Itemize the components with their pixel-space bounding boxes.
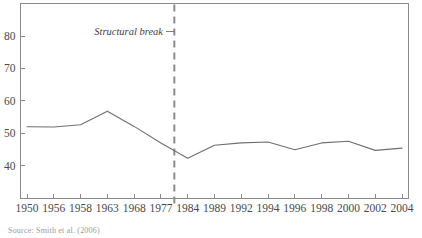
x-tick-label: 1956 [42, 202, 65, 214]
structural-break-marker: Structural break [94, 5, 174, 206]
y-tick-label: 50 [4, 127, 16, 139]
x-tick-label: 1984 [176, 202, 199, 214]
x-tick-label: 1992 [230, 202, 253, 214]
chart-figure: 8070605040 19501956195819631968197719841… [0, 0, 422, 238]
y-tick-label: 80 [4, 30, 16, 42]
source-note: Source: Smith et al. (2006) [8, 226, 100, 235]
x-tick-label: 1968 [123, 202, 146, 214]
x-tick-label: 1994 [257, 202, 280, 214]
y-tick-label: 40 [4, 160, 16, 172]
y-axis-ticks [21, 36, 26, 166]
y-tick-label: 70 [4, 62, 16, 74]
x-axis-ticks [27, 194, 402, 199]
y-axis-labels: 8070605040 [4, 30, 16, 172]
x-tick-label: 1998 [310, 202, 333, 214]
plot-frame [21, 4, 409, 199]
x-tick-label: 2004 [391, 202, 414, 214]
x-tick-label: 1996 [283, 202, 306, 214]
x-tick-label: 1963 [96, 202, 119, 214]
x-tick-label: 1989 [203, 202, 226, 214]
y-tick-label: 60 [4, 95, 16, 107]
x-tick-label: 1958 [69, 202, 92, 214]
x-tick-label: 2000 [337, 202, 360, 214]
data-series-group [27, 111, 402, 158]
series-line-value [27, 111, 402, 158]
line-chart-svg: 8070605040 19501956195819631968197719841… [0, 0, 422, 238]
x-axis-labels: 1950195619581963196819771984198919921994… [16, 202, 414, 214]
x-tick-label: 1950 [16, 202, 39, 214]
x-tick-label: 2002 [364, 202, 387, 214]
x-tick-label: 1977 [149, 202, 172, 214]
structural-break-label: Structural break [94, 26, 163, 37]
